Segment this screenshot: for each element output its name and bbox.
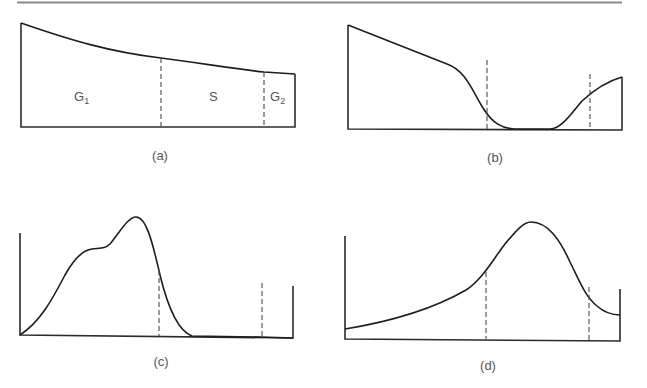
figure-canvas: G1 S G2 (a) (b) (c) (d): [0, 0, 647, 388]
panel-b-curve: [348, 25, 622, 129]
panel-c-caption: (c): [153, 354, 168, 369]
panel-a-frame: [21, 23, 295, 127]
panel-a: G1 S G2 (a): [21, 23, 295, 163]
region-label-g2: G2: [270, 89, 285, 106]
panel-d: (d): [345, 222, 620, 373]
panel-c: (c): [20, 217, 293, 369]
panel-a-curve: [21, 23, 295, 74]
panel-b: (b): [348, 25, 622, 165]
panel-a-caption: (a): [152, 148, 168, 163]
panel-c-frame: [20, 233, 293, 338]
region-label-s: S: [209, 89, 218, 104]
panel-c-curve: [20, 217, 293, 338]
panel-d-caption: (d): [480, 358, 496, 373]
panel-d-frame: [345, 236, 620, 341]
panel-d-curve: [345, 222, 620, 329]
region-label-g1: G1: [74, 89, 89, 106]
panel-b-caption: (b): [487, 150, 503, 165]
